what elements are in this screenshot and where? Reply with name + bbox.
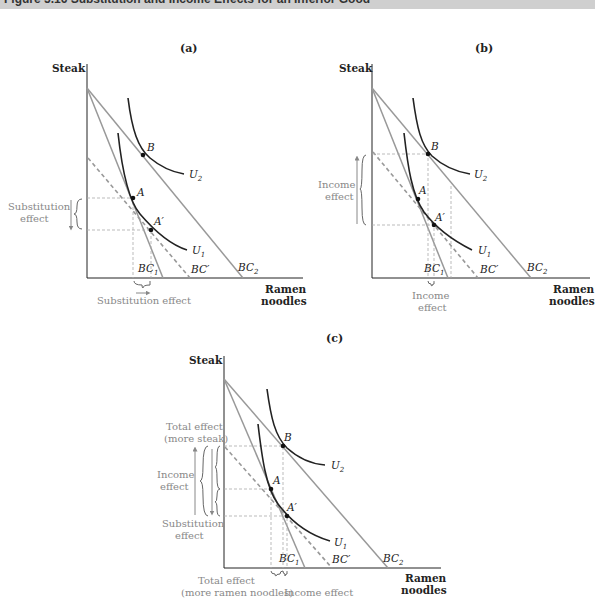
annotation: (more steak) [164, 433, 228, 444]
x-axis-label: Ramen [553, 283, 595, 295]
svg-text:U2: U2 [331, 459, 345, 474]
panel-b: (b) Steak Ramen noodles BAA′ U2 U1 BC1 B… [318, 42, 595, 313]
svg-text:U1: U1 [334, 536, 347, 551]
svg-text:B: B [146, 141, 155, 153]
svg-text:U1: U1 [478, 244, 491, 259]
svg-text:A′: A′ [153, 215, 165, 227]
panel-label: (c) [326, 332, 343, 345]
svg-text:A: A [418, 184, 427, 196]
y-axis-label: Steak [189, 354, 223, 366]
panel-a: (a) Steak Ramen noodles BAA′ U2 U1 BC1 B… [8, 42, 307, 307]
annotation: Substitution effect [97, 295, 191, 306]
y-axis-label: Steak [339, 62, 373, 74]
annotation: Income [318, 179, 355, 190]
svg-text:U2: U2 [474, 168, 488, 183]
x-axis-label-2: noodles [261, 295, 307, 307]
annotation: Income [157, 469, 194, 480]
panel-c: (c) Steak Ramen noodles BAA′ U2 U1 BC1 B… [157, 332, 447, 598]
x-axis-label: Ramen [405, 572, 447, 584]
x-axis-label-2: noodles [401, 584, 447, 596]
diagram: (a) Steak Ramen noodles BAA′ U2 U1 BC1 B… [0, 0, 595, 599]
svg-text:BC′: BC′ [479, 263, 499, 275]
x-axis-label: Ramen [265, 283, 307, 295]
annotation: Total effect [166, 421, 223, 432]
annotation: Income effect [284, 587, 353, 598]
annotation: Total effect [198, 575, 255, 586]
svg-text:BC1: BC1 [137, 262, 158, 277]
annotation: effect [20, 213, 49, 224]
svg-text:B: B [283, 431, 292, 443]
panel-label: (b) [475, 42, 493, 55]
annotation: Substitution [8, 201, 71, 212]
svg-text:BC′: BC′ [331, 553, 351, 565]
panel-label: (a) [180, 42, 198, 55]
annotation: Substitution [162, 518, 225, 529]
svg-text:A′: A′ [434, 211, 446, 223]
svg-text:U2: U2 [189, 168, 203, 183]
y-axis-label: Steak [52, 62, 86, 74]
annotation: Income [412, 290, 449, 301]
svg-text:A: A [136, 186, 145, 198]
svg-text:BC2: BC2 [526, 261, 548, 276]
svg-text:BC′: BC′ [190, 263, 210, 275]
annotation: effect [418, 302, 447, 313]
annotation: (more ramen noodles) [181, 587, 293, 598]
svg-text:A′: A′ [286, 501, 298, 513]
svg-text:U1: U1 [192, 244, 205, 259]
svg-text:A: A [272, 474, 281, 486]
svg-text:B: B [430, 140, 439, 152]
annotation: effect [160, 481, 189, 492]
x-axis-label-2: noodles [549, 295, 595, 307]
svg-text:BC1: BC1 [278, 552, 299, 567]
annotation: effect [325, 191, 354, 202]
annotation: effect [175, 530, 204, 541]
